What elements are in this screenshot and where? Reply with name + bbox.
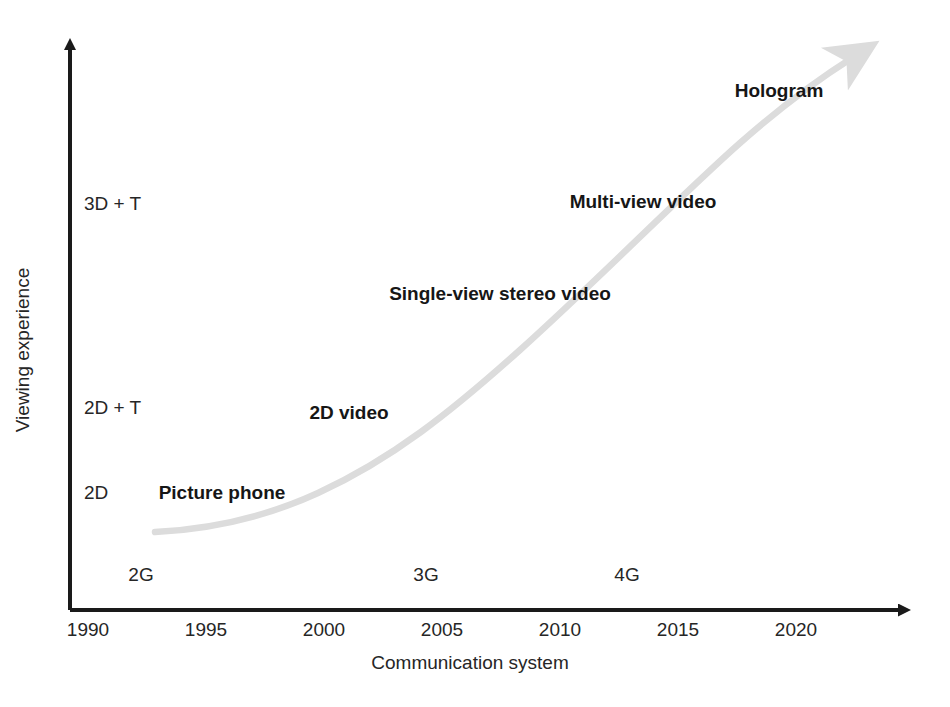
generation-label-2g: 2G <box>128 565 153 584</box>
x-tick-label-2000: 2000 <box>303 620 345 639</box>
y-tick-label-2d: 2D <box>84 483 108 502</box>
x-tick-label-2010: 2010 <box>539 620 581 639</box>
data-label-single-view-stereo-video: Single-view stereo video <box>389 284 611 303</box>
x-tick-label-2020: 2020 <box>775 620 817 639</box>
data-label-multi-view-video: Multi-view video <box>570 192 717 211</box>
x-axis-title: Communication system <box>371 653 568 672</box>
data-label-2d-video: 2D video <box>309 403 388 422</box>
x-tick-label-1995: 1995 <box>185 620 227 639</box>
y-tick-label-2d-t: 2D + T <box>84 398 141 417</box>
generation-label-4g: 4G <box>614 565 639 584</box>
x-tick-label-1990: 1990 <box>67 620 109 639</box>
y-axis-title: Viewing experience <box>13 268 32 432</box>
x-tick-label-2005: 2005 <box>421 620 463 639</box>
chart-canvas <box>0 0 950 707</box>
generation-label-3g: 3G <box>413 565 438 584</box>
data-label-picture-phone: Picture phone <box>159 483 286 502</box>
x-tick-label-2015: 2015 <box>657 620 699 639</box>
y-tick-label-3d-t: 3D + T <box>84 194 141 213</box>
chart-figure: Viewing experience 3D + T 2D + T 2D 2G 3… <box>0 0 950 707</box>
data-label-hologram: Hologram <box>735 81 824 100</box>
